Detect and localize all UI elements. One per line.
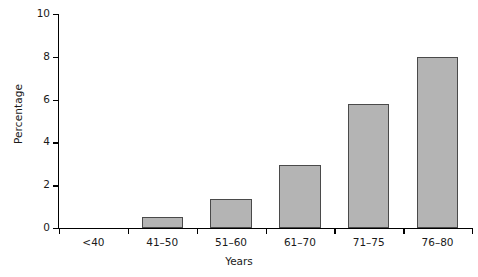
y-axis-title-text: Percentage (12, 84, 24, 144)
x-tick-label: 71–75 (334, 236, 403, 248)
y-tick-label: 0 (43, 221, 50, 233)
x-axis-title: Years (0, 255, 478, 267)
x-tick-label: 51–60 (197, 236, 266, 248)
y-tick-mark (53, 57, 58, 58)
x-tick-mark (472, 228, 473, 234)
y-axis-line (58, 14, 59, 229)
x-tick-label: 41–50 (128, 236, 197, 248)
y-tick-mark (53, 142, 58, 143)
bar-slot (142, 14, 183, 228)
y-tick-mark (53, 100, 58, 101)
bar (210, 199, 251, 228)
x-tick-mark (197, 228, 198, 234)
bar-slot (210, 14, 251, 228)
bar (417, 57, 458, 228)
x-tick-mark (334, 228, 335, 234)
y-tick-label: 8 (43, 50, 50, 62)
x-tick-label: <40 (59, 236, 128, 248)
y-tick-label: 10 (37, 7, 50, 19)
bar (348, 104, 389, 228)
bar (279, 165, 320, 228)
bar-slot (279, 14, 320, 228)
y-tick-mark (53, 185, 58, 186)
y-tick-mark (53, 14, 58, 15)
y-tick-label: 4 (43, 135, 50, 147)
y-axis-title: Percentage (8, 0, 28, 228)
y-tick-mark (53, 228, 58, 229)
bar-slot (73, 14, 114, 228)
bar-chart: Percentage 0246810 <4041–5051–6061–7071–… (0, 0, 478, 277)
x-tick-label: 76–80 (403, 236, 472, 248)
y-tick-label: 6 (43, 93, 50, 105)
bar-slot (417, 14, 458, 228)
y-tick-label: 2 (43, 178, 50, 190)
bar-slot (348, 14, 389, 228)
x-tick-mark (59, 228, 60, 234)
x-tick-mark (266, 228, 267, 234)
bar (142, 217, 183, 228)
x-tick-mark (403, 228, 404, 234)
x-tick-label: 61–70 (266, 236, 335, 248)
x-tick-mark (128, 228, 129, 234)
